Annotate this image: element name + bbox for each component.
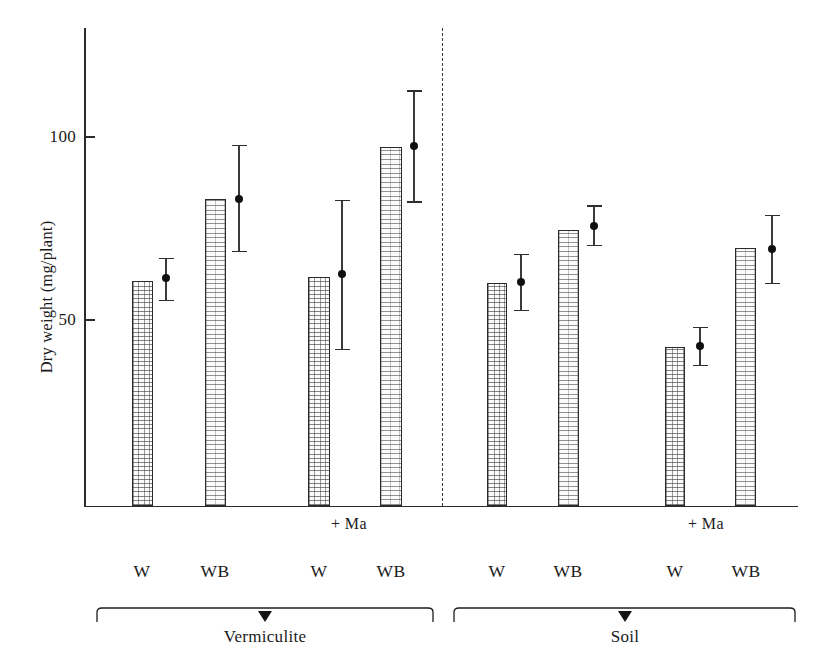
bar-7 [665, 347, 685, 506]
group-label-3: W [284, 561, 354, 582]
error-bar-cap-upper-5 [514, 254, 529, 255]
y-axis-title: Dry weight (mg/plant) [37, 172, 57, 422]
error-bar-cap-lower-6 [587, 245, 602, 246]
data-point-marker-4 [410, 142, 419, 151]
bar-3 [308, 277, 330, 506]
group-label-8: WB [711, 561, 781, 582]
chart-figure: 100 50 Dry weight (mg/plant) + Ma + Ma W… [0, 0, 817, 667]
error-bar-cap-lower-8 [765, 283, 780, 284]
annotation-plus-ma-soil: + Ma [688, 515, 724, 533]
group-label-5: W [462, 561, 532, 582]
data-point-marker-7 [696, 342, 705, 351]
error-bar-cap-lower-3 [335, 349, 350, 350]
data-point-marker-2 [235, 195, 244, 204]
y-tick-100-label: 100 [30, 128, 76, 145]
error-bar-cap-lower-2 [232, 251, 247, 252]
panel-label-vermiculite: Vermiculite [155, 627, 375, 647]
annotation-plus-ma-vermiculite: + Ma [331, 515, 367, 533]
error-bar-cap-upper-2 [232, 145, 247, 146]
error-bar-cap-lower-5 [514, 310, 529, 311]
group-label-2: WB [180, 561, 250, 582]
bar-2 [205, 199, 226, 506]
y-tick-50-mark [84, 319, 95, 321]
x-axis-line [84, 506, 798, 507]
bar-1 [132, 281, 153, 506]
bar-6 [558, 230, 579, 506]
bar-5 [487, 283, 507, 506]
error-bar-cap-upper-4 [407, 90, 422, 91]
group-label-4: WB [356, 561, 426, 582]
bar-4 [380, 147, 402, 506]
data-point-marker-6 [590, 222, 599, 231]
error-bar-cap-lower-7 [693, 365, 708, 366]
error-bar-cap-lower-1 [159, 300, 174, 301]
error-bar-cap-upper-6 [587, 205, 602, 206]
data-point-marker-3 [338, 270, 347, 279]
error-bar-cap-upper-7 [693, 327, 708, 328]
error-bar-cap-upper-8 [765, 215, 780, 216]
group-label-1: W [107, 561, 177, 582]
y-tick-100-mark [84, 136, 95, 138]
error-bar-cap-upper-3 [335, 200, 350, 201]
pointer-triangle-vermiculite [258, 611, 272, 622]
error-bar-cap-upper-1 [159, 258, 174, 259]
pointer-triangle-soil [618, 611, 632, 622]
data-point-marker-1 [162, 274, 171, 283]
y-axis-line [84, 28, 86, 507]
group-label-6: WB [533, 561, 603, 582]
error-bar-cap-lower-4 [407, 201, 422, 202]
data-point-marker-8 [768, 245, 777, 254]
panel-divider [442, 28, 443, 506]
bar-8 [735, 248, 756, 506]
data-point-marker-5 [517, 278, 526, 287]
panel-label-soil: Soil [515, 627, 735, 647]
group-label-7: W [640, 561, 710, 582]
